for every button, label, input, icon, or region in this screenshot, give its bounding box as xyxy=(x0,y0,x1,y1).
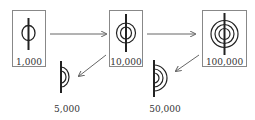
label-100000: 100,000 xyxy=(202,57,247,67)
label-1000: 1,000 xyxy=(12,57,46,67)
label-10000: 10,000 xyxy=(109,57,143,67)
arrow-10000-to-5000 xyxy=(79,55,106,76)
half-50000 xyxy=(154,60,167,97)
half-ring-symbol-icon xyxy=(61,61,69,93)
label-5000: 5,000 xyxy=(50,104,84,114)
arrow-100000-to-50000 xyxy=(176,55,199,71)
half-5000 xyxy=(61,61,69,93)
half-double-ring-symbol-icon xyxy=(154,60,167,97)
label-50000: 50,000 xyxy=(145,104,185,114)
